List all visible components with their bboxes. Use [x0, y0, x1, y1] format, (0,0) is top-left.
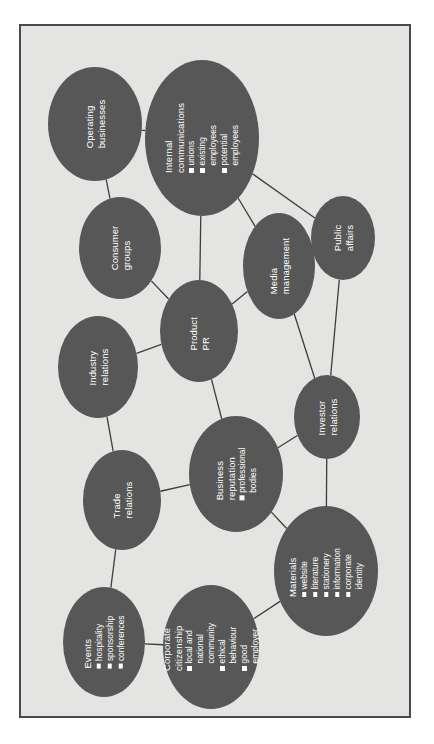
edge-trade-relations-to-events — [111, 549, 116, 587]
edge-media-management-to-investor-relations — [294, 314, 314, 378]
bullet-item: sponsorship — [104, 615, 115, 668]
node-public-affairs[interactable]: Public affairs — [311, 196, 375, 280]
node-title-investor-relations: Investor relations — [316, 399, 339, 436]
page-root: Operating businessesInternal communicati… — [0, 0, 434, 744]
bullet-label: local and national community — [184, 623, 217, 664]
edge-corporate-citizenship-to-materials — [254, 601, 280, 618]
node-title-media-management: Media management — [268, 238, 291, 294]
edge-business-reputation-to-trade-relations — [160, 485, 189, 492]
diagram-frame: Operating businessesInternal communicati… — [19, 24, 411, 718]
bullet-item: unions — [186, 103, 197, 173]
node-title-internal-communications: Internal communications — [163, 103, 186, 173]
node-internal-communications[interactable]: Internal communicationsunionsexisting em… — [145, 60, 259, 216]
node-title-corporate-citizenship: Corporate citizenship — [161, 623, 184, 671]
node-investor-relations[interactable]: Investor relations — [294, 375, 360, 459]
node-industry-relations[interactable]: Industry relations — [58, 316, 138, 418]
bullet-item: stationery — [321, 545, 332, 597]
bullet-square-icon — [222, 169, 227, 174]
node-content-materials: Materialswebsiteliteraturestationeryinfo… — [287, 545, 365, 597]
node-bullets-corporate-citizenship: local and national communityethical beha… — [184, 623, 261, 671]
bullet-label: conferences — [115, 615, 126, 661]
edge-operating-businesses-to-consumer-groups — [106, 179, 110, 198]
node-media-management[interactable]: Media management — [243, 213, 315, 319]
bullet-square-icon — [189, 169, 194, 174]
node-title-product-pr: Product PR — [188, 312, 211, 351]
bullet-label: existing employees — [197, 103, 219, 166]
bullet-square-icon — [118, 664, 123, 669]
bullet-item: literature — [310, 545, 321, 597]
bullet-label: ethical behaviour — [217, 623, 239, 664]
bullet-label: corporate identity — [343, 545, 365, 590]
bullet-square-icon — [302, 593, 307, 598]
edge-consumer-groups-to-product-pr — [151, 281, 168, 299]
bullet-square-icon — [335, 593, 340, 598]
node-content-media-management: Media management — [268, 238, 291, 294]
node-trade-relations[interactable]: Trade relations — [83, 450, 161, 550]
bullet-square-icon — [220, 667, 225, 672]
node-content-business-reputation: Business reputationprofessional bodies — [214, 448, 259, 501]
bullet-square-icon — [346, 593, 351, 598]
node-title-public-affairs: Public affairs — [332, 225, 355, 251]
node-materials[interactable]: Materialswebsiteliteraturestationeryinfo… — [274, 506, 378, 636]
edge-public-affairs-to-investor-relations — [331, 280, 340, 376]
node-content-industry-relations: Industry relations — [87, 349, 110, 386]
node-operating-businesses[interactable]: Operating businesses — [48, 67, 142, 181]
bullet-label: unions — [186, 141, 197, 166]
node-product-pr[interactable]: Product PR — [160, 280, 238, 382]
edge-internal-communications-to-media-management — [238, 198, 255, 226]
bullet-label: website — [299, 561, 310, 589]
bullet-item: conferences — [115, 615, 126, 668]
node-bullets-internal-communications: unionsexisting employeespotential employ… — [186, 103, 241, 173]
node-content-investor-relations: Investor relations — [316, 399, 339, 436]
node-title-business-reputation: Business reputation — [214, 448, 237, 501]
bullet-item: local and national community — [184, 623, 217, 671]
bullet-square-icon — [200, 169, 205, 174]
bullet-item: hospitality — [93, 615, 104, 668]
node-title-trade-relations: Trade relations — [111, 482, 134, 519]
bullet-item: ethical behaviour — [217, 623, 239, 671]
node-content-public-affairs: Public affairs — [332, 225, 355, 251]
bullet-square-icon — [324, 593, 329, 598]
node-content-corporate-citizenship: Corporate citizenshiplocal and national … — [161, 623, 261, 671]
bullet-square-icon — [313, 593, 318, 598]
bullet-label: literature — [310, 557, 321, 590]
node-content-product-pr: Product PR — [188, 312, 211, 351]
node-title-materials: Materials — [287, 545, 299, 597]
edge-business-reputation-to-materials — [271, 512, 286, 528]
bullet-label: sponsorship — [104, 616, 115, 661]
bullet-item: information — [332, 545, 343, 597]
node-content-consumer-groups: Consumer groups — [109, 226, 132, 271]
bullet-item: potential employees — [219, 103, 241, 173]
bullet-label: professional bodies — [237, 448, 259, 493]
bullet-square-icon — [107, 664, 112, 669]
node-consumer-groups[interactable]: Consumer groups — [79, 197, 161, 299]
bullet-item: existing employees — [197, 103, 219, 173]
bullet-label: potential employees — [219, 103, 241, 166]
edge-media-management-to-product-pr — [232, 292, 247, 304]
bullet-label: good employer — [239, 623, 261, 664]
node-content-internal-communications: Internal communicationsunionsexisting em… — [163, 103, 241, 173]
node-corporate-citizenship[interactable]: Corporate citizenshiplocal and national … — [163, 585, 259, 709]
edge-business-reputation-to-investor-relations — [278, 436, 297, 448]
node-title-events: Events — [82, 615, 94, 668]
bullet-item: website — [299, 545, 310, 597]
node-content-events: Eventshospitalitysponsorshipconferences — [82, 615, 127, 668]
node-title-operating-businesses: Operating businesses — [84, 100, 107, 149]
node-bullets-materials: websiteliteraturestationeryinformationco… — [299, 545, 365, 597]
node-business-reputation[interactable]: Business reputationprofessional bodies — [189, 416, 283, 532]
bullet-label: information — [332, 548, 343, 589]
node-title-industry-relations: Industry relations — [87, 349, 110, 386]
bullet-item: good employer — [239, 623, 261, 671]
bullet-square-icon — [240, 496, 245, 501]
edge-internal-communications-to-product-pr — [200, 216, 201, 280]
node-bullets-events: hospitalitysponsorshipconferences — [93, 615, 126, 668]
node-content-operating-businesses: Operating businesses — [84, 100, 107, 149]
node-title-consumer-groups: Consumer groups — [109, 226, 132, 271]
bullet-item: corporate identity — [343, 545, 365, 597]
bullet-label: stationery — [321, 553, 332, 589]
bullet-label: hospitality — [93, 624, 104, 661]
bullet-square-icon — [96, 664, 101, 669]
edge-product-pr-to-business-reputation — [211, 379, 221, 418]
node-events[interactable]: Eventshospitalitysponsorshipconferences — [63, 587, 145, 697]
diagram-canvas: Operating businessesInternal communicati… — [21, 26, 409, 716]
